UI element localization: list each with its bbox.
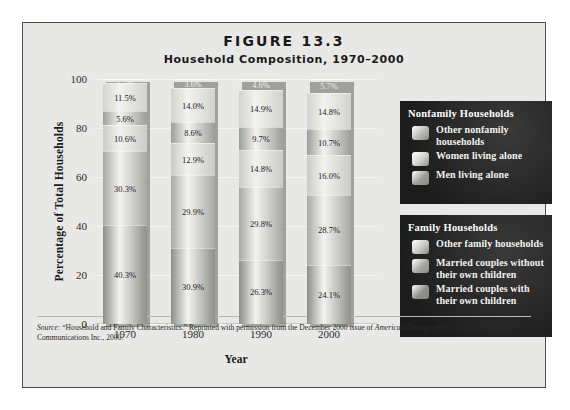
legend-swatch-icon [412, 259, 429, 273]
bar-segment[interactable]: 29.9% [171, 175, 215, 248]
bar-stack: 30.9%29.9%12.9%8.6%14.0%3.6% [171, 79, 215, 324]
plot-area: 10080604020040.3%30.3%10.6%5.6%11.5%1.7%… [95, 79, 377, 324]
source-note: Source: “Household and Family Characteri… [37, 323, 533, 343]
legend-swatch-icon [412, 240, 429, 254]
bar-segment[interactable]: 12.9% [171, 143, 215, 175]
source-publication: American Demographics [375, 323, 451, 332]
bar-segment[interactable]: 9.7% [239, 127, 283, 151]
bar-column[interactable]: 40.3%30.3%10.6%5.6%11.5%1.7% [103, 79, 147, 324]
y-axis-tick: 40 [76, 220, 87, 232]
bar-column[interactable]: 26.3%29.8%14.8%9.7%14.9%4.6% [239, 79, 283, 324]
bar-segment[interactable]: 14.0% [171, 88, 215, 122]
bar-column[interactable]: 24.1%28.7%16.0%10.7%14.8%5.7% [307, 79, 351, 324]
bar-segment[interactable]: 26.3% [239, 260, 283, 324]
bar-stack: 24.1%28.7%16.0%10.7%14.8%5.7% [307, 79, 351, 324]
y-axis-tick: 80 [76, 122, 87, 134]
bar-segment[interactable]: 14.9% [239, 90, 283, 127]
bar-segment[interactable]: 30.3% [103, 151, 147, 225]
bar-segment[interactable]: 4.6% [239, 79, 283, 90]
legend-item-label: Married couples without their own childr… [436, 257, 544, 280]
y-axis-tick: 100 [71, 73, 88, 85]
legend-item-label: Other family households [436, 238, 543, 250]
legend-item[interactable]: Women living alone [408, 150, 544, 166]
bar-segment[interactable]: 24.1% [307, 265, 351, 324]
bar-segment[interactable]: 28.7% [307, 195, 351, 265]
legend-item-label: Women living alone [436, 150, 522, 162]
bar-segment[interactable]: 14.8% [239, 150, 283, 186]
legend-swatch-icon [412, 285, 429, 299]
legend-family-households: Family Households Other family household… [400, 215, 552, 337]
bar-segment[interactable]: 29.8% [239, 187, 283, 260]
legend-swatch-icon [412, 126, 429, 140]
legend-swatch-icon [412, 152, 429, 166]
figure-number: FIGURE 13.3 [23, 33, 545, 49]
x-axis-label: Year [95, 353, 377, 365]
y-axis-tick: 60 [76, 171, 87, 183]
bar-segment[interactable]: 8.6% [171, 122, 215, 143]
y-axis-label: Percentage of Total Households [53, 79, 69, 324]
bar-segment[interactable]: 5.7% [307, 79, 351, 93]
bar-segment[interactable]: 10.7% [307, 129, 351, 155]
legend-item[interactable]: Married couples without their own childr… [408, 257, 544, 280]
legend-swatch-icon [412, 171, 429, 185]
bar-segment[interactable]: 3.6% [171, 79, 215, 88]
bar-column[interactable]: 30.9%29.9%12.9%8.6%14.0%3.6% [171, 79, 215, 324]
bar-segment[interactable]: 16.0% [307, 155, 351, 194]
legend-item[interactable]: Married couples with their own children [408, 283, 544, 306]
legend-nonfamily-title: Nonfamily Households [408, 108, 544, 119]
bar-stack: 40.3%30.3%10.6%5.6%11.5%1.7% [103, 79, 147, 324]
bar-segment[interactable]: 10.6% [103, 125, 147, 151]
legend-item-label: Other nonfamily households [436, 124, 544, 147]
bar-segment[interactable]: 5.6% [103, 111, 147, 125]
bar-segment[interactable]: 40.3% [103, 225, 147, 324]
figure-title: Household Composition, 1970–2000 [23, 53, 545, 66]
legend-nonfamily-households: Nonfamily Households Other nonfamily hou… [400, 101, 552, 204]
legend-item[interactable]: Other family households [408, 238, 544, 254]
legend-family-title: Family Households [408, 222, 544, 233]
legend-item[interactable]: Men living alone [408, 169, 544, 185]
bar-segment[interactable]: 1.7% [103, 79, 147, 83]
figure-panel: FIGURE 13.3 Household Composition, 1970–… [22, 22, 546, 388]
bar-segment[interactable]: 11.5% [103, 83, 147, 111]
legend-item-label: Married couples with their own children [436, 283, 544, 306]
bar-segment[interactable]: 14.8% [307, 93, 351, 129]
bar-segment[interactable]: 30.9% [171, 248, 215, 324]
y-axis-tick: 20 [76, 269, 87, 281]
bar-stack: 26.3%29.8%14.8%9.7%14.9%4.6% [239, 79, 283, 324]
legend-item-label: Men living alone [436, 169, 509, 181]
legend-item[interactable]: Other nonfamily households [408, 124, 544, 147]
source-prefix: Source: [37, 323, 60, 332]
